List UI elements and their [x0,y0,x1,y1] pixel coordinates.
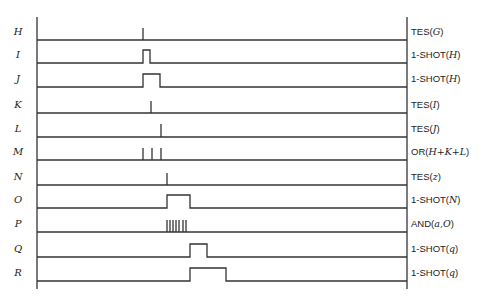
function-label-m: OR(H+K+L) [411,146,469,158]
function-label-j: 1-SHOT(H) [411,73,460,85]
waveform-m [37,148,407,160]
function-label-r: 1-SHOT(q) [411,267,458,279]
function-arg: a,O [434,218,450,229]
function-name: TES [411,171,429,182]
signal-label-k: K [8,99,28,111]
function-arg: H [449,73,457,84]
function-label-h: TES(G) [411,26,443,38]
function-name: TES [411,26,429,37]
waveform-n [37,173,407,185]
function-arg: G [433,26,441,37]
function-name: TES [411,99,429,110]
function-name: 1-SHOT [411,243,446,254]
function-label-i: 1-SHOT(H) [411,49,460,61]
waveforms [37,28,407,281]
function-label-l: TES(J) [411,123,440,135]
function-arg: q [449,267,455,278]
function-name: OR [411,146,425,157]
function-arg: H [449,49,457,60]
function-arg: N [449,194,457,205]
signal-label-m: M [8,146,28,158]
function-label-k: TES(I) [411,99,440,111]
signal-label-j: J [8,73,28,85]
waveform-k [37,101,407,113]
function-label-q: 1-SHOT(q) [411,243,458,255]
function-arg: q [449,243,455,254]
signal-label-h: H [8,26,28,38]
function-label-p: AND(a,O) [411,218,454,230]
function-arg: I [433,99,437,110]
function-name: 1-SHOT [411,49,446,60]
function-name: TES [411,123,429,134]
waveform-q [37,244,407,257]
signal-label-n: N [8,171,28,183]
signal-label-r: R [8,267,28,279]
waveform-r [37,268,407,281]
waveform-h [37,28,407,40]
signal-label-o: O [8,194,28,206]
waveform-p [37,220,407,232]
function-name: 1-SHOT [411,267,446,278]
waveform-j [37,74,407,87]
function-name: AND [411,218,431,229]
signal-label-i: I [8,49,28,61]
signal-label-l: L [8,123,28,135]
function-name: 1-SHOT [411,194,446,205]
waveform-i [37,50,407,63]
function-arg: H+K+L [428,146,466,157]
function-arg: z [433,171,438,182]
function-arg: J [433,123,437,134]
function-name: 1-SHOT [411,73,446,84]
signal-label-q: Q [8,243,28,255]
waveform-l [37,124,407,137]
signal-label-p: P [8,218,28,230]
waveform-o [37,195,407,208]
function-label-n: TES(z) [411,171,441,183]
function-label-o: 1-SHOT(N) [411,194,461,206]
